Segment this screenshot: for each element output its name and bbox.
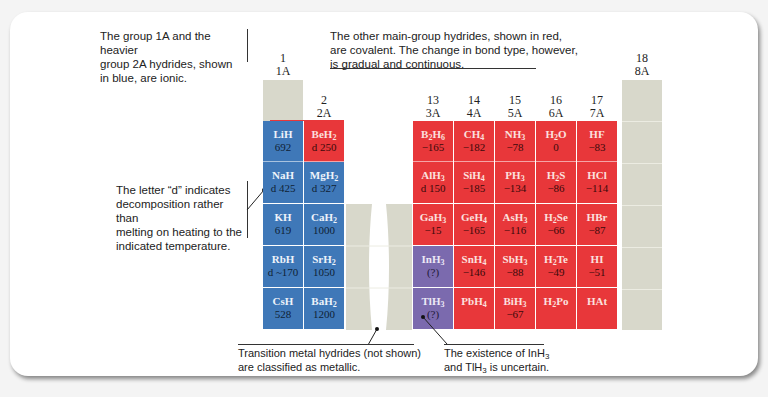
- cell-NH3: NH3−78: [495, 121, 535, 162]
- cell-MgH2: MgH2d 327: [304, 162, 344, 203]
- decomposition-note-line: decomposition rather than: [116, 197, 246, 225]
- transition-note: Transition metal hydrides (not shown) ar…: [238, 346, 428, 374]
- cell-BeH2: BeH2d 250: [304, 121, 344, 162]
- transition-metal-gap: [346, 204, 412, 330]
- cell-H2Se: H2Se−66: [536, 204, 576, 245]
- cell-InH3: InH3(?): [413, 246, 453, 287]
- cell-GaH3: GaH3−15: [413, 204, 453, 245]
- covalent-note-underline: [330, 68, 536, 69]
- group-header-18: 188A: [622, 52, 662, 78]
- cell-KH: KH619: [263, 204, 303, 245]
- cell-H2S: H2S−86: [536, 162, 576, 203]
- uncertain-note: The existence of InH3 and TlH3 is uncert…: [444, 346, 564, 374]
- uncertain-note-line: and TlH3 is uncertain.: [444, 360, 564, 374]
- ionic-note: The group 1A and the heavier group 2A hy…: [100, 29, 250, 85]
- cell-RbH: RbHd ~170: [263, 246, 303, 287]
- cell-SbH3: SbH3−88: [495, 246, 535, 287]
- cell-H2O: H2O0: [536, 121, 576, 162]
- ionic-note-line: in blue, are ionic.: [100, 71, 250, 85]
- decomposition-note-line: melting on heating to the: [116, 225, 246, 239]
- cell-AlH3: AlH3d 150: [413, 162, 453, 203]
- group-header-17: 177A: [577, 94, 617, 120]
- cell-LiH: LiH692: [263, 121, 303, 162]
- cell-HAt: HAt: [577, 288, 617, 329]
- cell-HI: HI−51: [577, 246, 617, 287]
- uncertain-note-line: The existence of InH3: [444, 346, 564, 360]
- ionic-note-line: The group 1A and the heavier: [100, 29, 250, 57]
- ionic-note-line: group 2A hydrides, shown: [100, 57, 250, 71]
- cell-SnH4: SnH4−146: [454, 246, 494, 287]
- group-header-13: 133A: [413, 94, 453, 120]
- cell-GeH4: GeH4−165: [454, 204, 494, 245]
- group-header-14: 144A: [454, 94, 494, 120]
- group-header-16: 166A: [536, 94, 576, 120]
- cell-BaH2: BaH21200: [304, 288, 344, 329]
- transition-note-line: are classified as metallic.: [238, 360, 428, 374]
- uncertain-note-rule: [444, 344, 544, 345]
- covalent-note-line: The other main-group hydrides, shown in …: [330, 29, 600, 43]
- group18-column: [622, 80, 662, 330]
- cell-H2Te: H2Te−49: [536, 246, 576, 287]
- decomposition-note-line: indicated temperature.: [116, 239, 246, 253]
- covalent-note-line: are covalent. The change in bond type, h…: [330, 43, 600, 57]
- cell-CsH: CsH528: [263, 288, 303, 329]
- covalent-note: The other main-group hydrides, shown in …: [330, 29, 600, 71]
- cell-NaH: NaHd 425: [263, 162, 303, 203]
- group-header-2: 22A: [304, 94, 344, 120]
- transition-note-rule: [238, 344, 414, 345]
- cell-HBr: HBr−87: [577, 204, 617, 245]
- hydrogen-cell-gray: [263, 80, 303, 121]
- group-header-1: 11A: [263, 52, 303, 78]
- group-header-15: 155A: [495, 94, 535, 120]
- cell-AsH3: AsH3−116: [495, 204, 535, 245]
- cell-PH3: PH3−134: [495, 162, 535, 203]
- cell-SiH4: SiH4−185: [454, 162, 494, 203]
- cell-H2Po: H2Po: [536, 288, 576, 329]
- transition-note-line: Transition metal hydrides (not shown): [238, 346, 428, 360]
- cell-SrH2: SrH21050: [304, 246, 344, 287]
- cell-B2H6: B2H6−165: [413, 121, 453, 162]
- cell-HF: HF−83: [577, 121, 617, 162]
- cell-BiH3: BiH3−67: [495, 288, 535, 329]
- cell-CaH2: CaH21000: [304, 204, 344, 245]
- ionic-note-bracket: [247, 29, 248, 62]
- cell-HCl: HCl−114: [577, 162, 617, 203]
- cell-CH4: CH4−182: [454, 121, 494, 162]
- decomposition-note: The letter “d” indicates decomposition r…: [116, 183, 246, 253]
- decomposition-note-line: The letter “d” indicates: [116, 183, 246, 197]
- uncertain-pointer: [415, 315, 465, 347]
